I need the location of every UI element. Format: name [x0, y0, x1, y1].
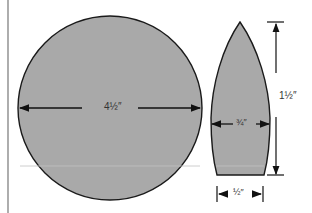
bullet-height-label: 1½″ — [279, 90, 296, 101]
bullet-middle-width-label: ¾″ — [236, 117, 247, 127]
pattern-diagram — [0, 0, 312, 213]
bullet-shape — [211, 22, 270, 175]
bullet-base-width-label: ½″ — [233, 187, 244, 197]
circle-diameter-label: 4½″ — [104, 101, 121, 112]
